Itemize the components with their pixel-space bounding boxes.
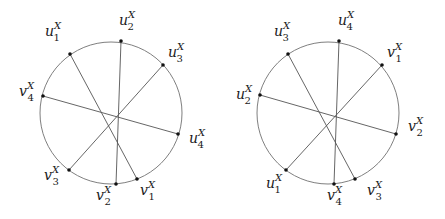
label-superscript: X xyxy=(176,41,185,52)
label-subscript: 3 xyxy=(53,176,59,187)
label-u4: uX4 xyxy=(338,9,355,32)
label-superscript: X xyxy=(51,164,60,175)
label-subscript: 4 xyxy=(198,139,204,150)
label-subscript: 2 xyxy=(105,196,111,207)
label-subscript: 3 xyxy=(376,191,382,202)
label-base: v xyxy=(408,118,416,134)
label-base: v xyxy=(367,182,375,198)
point-v2 xyxy=(394,132,398,136)
label-superscript: X xyxy=(197,127,206,138)
point-v1 xyxy=(380,63,384,67)
point-u4 xyxy=(337,39,341,43)
label-superscript: X xyxy=(394,41,403,52)
point-v2 xyxy=(114,182,118,186)
label-superscript: X xyxy=(282,20,291,31)
label-superscript: X xyxy=(274,172,283,183)
label-subscript: 2 xyxy=(417,127,423,138)
label-superscript: X xyxy=(346,9,355,20)
label-subscript: 3 xyxy=(283,32,289,43)
label-base: v xyxy=(44,167,52,183)
circle-outline xyxy=(40,42,182,184)
label-subscript: 4 xyxy=(347,21,353,32)
chord-u3-v3 xyxy=(69,65,163,170)
label-u3: uX3 xyxy=(274,20,291,43)
label-v4: vX4 xyxy=(327,184,343,207)
point-u2 xyxy=(119,39,123,43)
label-subscript: 1 xyxy=(54,32,60,43)
label-base: v xyxy=(327,187,335,203)
label-superscript: X xyxy=(334,184,343,195)
point-u4 xyxy=(176,132,180,136)
label-superscript: X xyxy=(147,179,156,190)
label-u1: uX1 xyxy=(45,20,62,43)
right-chord-diagram: uX3uX4vX1vX2vX3vX4uX1uX2 xyxy=(236,9,424,207)
label-superscript: X xyxy=(26,80,35,91)
label-v2: vX2 xyxy=(96,184,112,207)
label-v3: vX3 xyxy=(44,164,60,187)
chord-u3-v3 xyxy=(288,54,355,179)
point-v1 xyxy=(135,177,139,181)
label-superscript: X xyxy=(374,179,383,190)
label-subscript: 1 xyxy=(396,53,402,64)
point-v3 xyxy=(67,168,71,172)
label-u3: uX3 xyxy=(168,41,185,64)
label-superscript: X xyxy=(415,115,424,126)
left-chord-diagram: uX1uX2uX3uX4vX1vX2vX3vX4 xyxy=(19,9,206,207)
label-subscript: 3 xyxy=(177,53,183,64)
point-u3 xyxy=(286,52,290,56)
label-subscript: 1 xyxy=(149,191,155,202)
label-subscript: 4 xyxy=(28,92,34,103)
label-base: v xyxy=(96,187,104,203)
point-u1 xyxy=(68,52,72,56)
label-superscript: X xyxy=(127,9,136,20)
label-subscript: 1 xyxy=(275,184,281,195)
label-v4: vX4 xyxy=(19,80,35,103)
circle-outline xyxy=(257,42,399,184)
label-u2: uX2 xyxy=(119,9,136,32)
label-superscript: X xyxy=(53,20,62,31)
label-u2: uX2 xyxy=(236,83,253,106)
point-v3 xyxy=(353,177,357,181)
label-subscript: 4 xyxy=(336,196,342,207)
chord-diagrams-figure: uX1uX2uX3uX4vX1vX2vX3vX4 uX3uX4vX1vX2vX3… xyxy=(0,0,445,219)
label-u1: uX1 xyxy=(266,172,283,195)
label-superscript: X xyxy=(103,184,112,195)
chord-v4-u4 xyxy=(43,96,178,134)
label-base: v xyxy=(387,44,395,60)
label-superscript: X xyxy=(244,83,253,94)
point-u1 xyxy=(284,168,288,172)
label-base: v xyxy=(140,182,148,198)
label-v2: vX2 xyxy=(408,115,424,138)
label-v3: vX3 xyxy=(367,179,383,202)
label-v1: vX1 xyxy=(140,179,156,202)
point-u2 xyxy=(258,93,262,97)
point-u3 xyxy=(161,63,165,67)
label-base: v xyxy=(19,83,27,99)
label-v1: vX1 xyxy=(387,41,403,64)
label-subscript: 2 xyxy=(128,21,134,32)
point-v4 xyxy=(41,94,45,98)
label-subscript: 2 xyxy=(245,95,251,106)
label-u4: uX4 xyxy=(189,127,206,150)
chord-v1-u1 xyxy=(286,65,382,170)
chord-u1-v1 xyxy=(70,54,137,179)
